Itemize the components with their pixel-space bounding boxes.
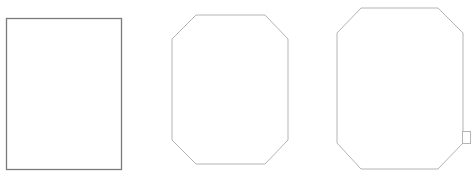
diagram-canvas: [0, 0, 475, 190]
octagon-large-shape: [337, 8, 463, 169]
resize-handle-square[interactable]: [463, 132, 471, 144]
rectangle-shape: [7, 19, 122, 170]
octagon-small-shape: [172, 15, 288, 164]
